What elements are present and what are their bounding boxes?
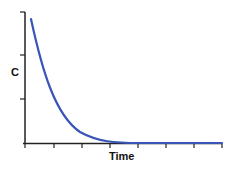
y-axis-label: C [11, 66, 19, 78]
chart-canvas [0, 0, 236, 175]
decay-curve [31, 19, 222, 143]
x-axis-label: Time [109, 150, 134, 162]
